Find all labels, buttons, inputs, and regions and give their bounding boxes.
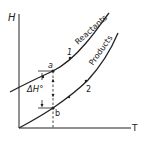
- point-b-label: b: [55, 109, 60, 118]
- products-label: Products: [87, 34, 114, 67]
- point-2-marker: [85, 80, 88, 83]
- products-arrow-marker: [68, 96, 70, 98]
- x-axis-label: T: [131, 123, 138, 133]
- point-a-label: a: [48, 61, 53, 70]
- point-1-label: 1: [67, 48, 72, 57]
- point-1-marker: [69, 57, 72, 60]
- y-axis-label: H: [8, 12, 16, 23]
- enthalpy-temperature-diagram: H T Reactants Products a b 1 2 ΔH°: [0, 0, 155, 142]
- delta-h-label: ΔH°: [26, 84, 43, 94]
- point-2-label: 2: [86, 85, 91, 94]
- delta-arrow-down-icon: [41, 104, 44, 108]
- dashed-arrow-up-icon: [52, 79, 55, 83]
- dashed-arrow-down-icon: [52, 94, 55, 98]
